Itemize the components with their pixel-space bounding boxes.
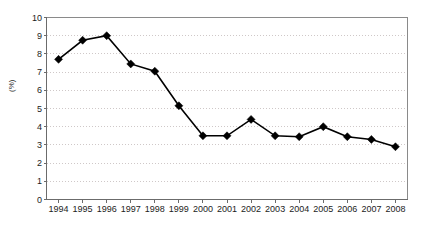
data-point-2004 [295, 133, 303, 141]
data-point-2008 [391, 143, 399, 151]
series-line [59, 36, 396, 147]
plot-area [0, 0, 433, 229]
data-point-2007 [367, 135, 375, 143]
data-point-2005 [319, 123, 327, 131]
data-point-2006 [343, 133, 351, 141]
line-chart: (%) 109876543210 19941995199619971998199… [0, 0, 433, 229]
